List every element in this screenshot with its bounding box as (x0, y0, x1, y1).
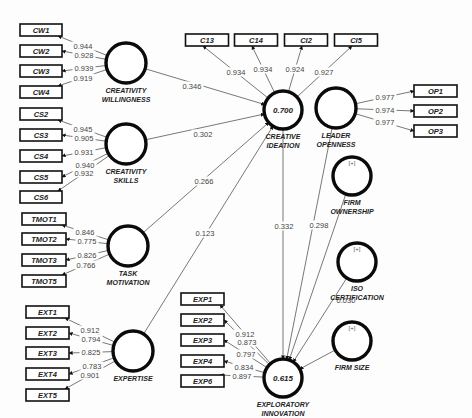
indicator-label: EXP1 (193, 295, 212, 304)
latent-op: LEADEROPENNESS (316, 88, 356, 148)
loading-value: 0.945 (74, 125, 93, 134)
loading-value: 0.977 (376, 118, 395, 127)
latent-label: EXPERTISE (113, 375, 152, 382)
loading-value: 0.775 (78, 237, 97, 246)
path-model-canvas: 0.9440.9280.9390.9190.9450.9050.9310.940… (0, 0, 472, 418)
indicator-label: C14 (249, 36, 264, 45)
indicator-label: EXP2 (193, 316, 213, 325)
indicator-label: CI5 (350, 36, 363, 45)
loading-value: 0.834 (235, 363, 254, 372)
latent-label: WILLINGNESS (102, 96, 151, 103)
formative-marker-icon: [+] (349, 325, 356, 331)
path-arrow-fs-to-ei (300, 350, 336, 369)
indicator-label: C13 (200, 36, 215, 45)
latent-label: OWNERSHIP (330, 208, 374, 215)
path-coefficient: 0.302 (194, 130, 213, 139)
latent-label: LEADER (322, 132, 351, 139)
indicator-label: TMOT2 (31, 235, 57, 244)
indicator-label: EXT2 (38, 329, 58, 338)
path-coefficient: 0.266 (195, 177, 214, 186)
loading-value: 0.783 (83, 362, 102, 371)
indicator-label: TMOT3 (31, 256, 57, 265)
loading-value: 0.977 (376, 93, 395, 102)
latent-label: ISO (351, 285, 364, 292)
loading-value: 0.924 (286, 65, 305, 74)
indicator-label: EXP3 (193, 336, 213, 345)
latent-cs: CREATIVITYSKILLS (105, 124, 147, 184)
latent-circle (106, 43, 146, 83)
r-squared-value: 0.700 (273, 106, 294, 115)
loading-value: 0.974 (376, 106, 395, 115)
latent-fo: [+]FIRMOWNERSHIP (330, 157, 374, 215)
latent-iso: [+]ISOCERTIFICATION (330, 243, 384, 301)
loading-value: 0.934 (227, 68, 246, 77)
latent-label: FIRM (343, 199, 360, 206)
indicator-label: CW3 (33, 67, 50, 76)
loading-value: 0.905 (75, 134, 94, 143)
loading-value: 0.932 (75, 169, 94, 178)
path-coefficient: 0.123 (196, 229, 215, 238)
indicator-label: CS3 (34, 131, 49, 140)
latent-label: TASK (119, 270, 138, 277)
formative-marker-icon: [+] (354, 246, 361, 252)
latent-constructs-layer: CREATIVITYWILLINGNESSCREATIVITYSKILLSTAS… (102, 43, 385, 417)
latent-circle (113, 331, 153, 371)
indicator-label: TMOT1 (31, 215, 56, 224)
latent-circle (108, 226, 148, 266)
loading-value: 0.944 (74, 42, 93, 51)
latent-label: SKILLS (114, 177, 139, 184)
latent-label: INNOVATION (262, 410, 306, 417)
latent-label: OPENNESS (317, 141, 356, 148)
latent-label: MOTIVATION (107, 279, 151, 286)
indicator-label: CS5 (34, 173, 49, 182)
loading-value: 0.939 (75, 64, 94, 73)
formative-marker-icon: [+] (349, 160, 356, 166)
pls-sem-diagram: 0.9440.9280.9390.9190.9450.9050.9310.940… (0, 0, 472, 418)
latent-circle (106, 124, 146, 164)
loading-value: 0.826 (78, 251, 97, 260)
indicator-label: OP1 (428, 87, 443, 96)
indicator-label: OP2 (428, 107, 444, 116)
latent-label: FIRM SIZE (335, 364, 370, 371)
indicator-label: EXT5 (38, 391, 58, 400)
path-coefficient: 0.332 (275, 222, 294, 231)
indicator-label: CS4 (34, 152, 49, 161)
r-squared-value: 0.615 (273, 374, 294, 383)
loading-value: 0.846 (76, 228, 95, 237)
latent-label: CREATIVITY (105, 168, 147, 175)
loading-value: 0.931 (75, 148, 94, 157)
indicator-label: CI2 (300, 36, 313, 45)
latent-label: CERTIFICATION (330, 294, 384, 301)
loading-value: 0.766 (77, 261, 96, 270)
loading-value: 0.873 (238, 338, 257, 347)
latent-label: IDEATION (267, 142, 301, 149)
latent-tmot: TASKMOTIVATION (107, 226, 151, 286)
indicator-label: CW4 (33, 88, 50, 97)
loading-value: 0.928 (75, 51, 94, 60)
loading-value: 0.825 (82, 348, 101, 357)
path-coefficient: 0.298 (310, 221, 329, 230)
latent-fs: [+]FIRM SIZE (333, 322, 371, 371)
indicator-label: OP3 (428, 127, 444, 136)
loading-value: 0.912 (81, 326, 100, 335)
indicator-label: EXP4 (193, 357, 213, 366)
indicator-label: CS6 (34, 193, 49, 202)
loading-value: 0.927 (315, 68, 334, 77)
latent-label: CREATIVE (266, 133, 301, 140)
indicator-label: EXP6 (193, 377, 213, 386)
loading-value: 0.794 (82, 335, 101, 344)
path-coefficient: 0.346 (183, 82, 202, 91)
loading-value: 0.797 (237, 350, 256, 359)
latent-label: CREATIVITY (105, 87, 147, 94)
indicator-label: EXT4 (38, 370, 58, 379)
loading-value: 0.901 (81, 371, 100, 380)
latent-label: EXPLORATORY (257, 401, 311, 408)
indicator-label: CS2 (34, 110, 49, 119)
latent-cw: CREATIVITYWILLINGNESS (102, 43, 151, 103)
indicator-label: EXT1 (38, 308, 57, 317)
latent-circle (316, 88, 356, 128)
loading-value: 0.934 (254, 65, 273, 74)
latent-ext: EXPERTISE (113, 331, 153, 382)
indicator-label: CW1 (33, 26, 50, 35)
loading-value: 0.897 (233, 372, 252, 381)
